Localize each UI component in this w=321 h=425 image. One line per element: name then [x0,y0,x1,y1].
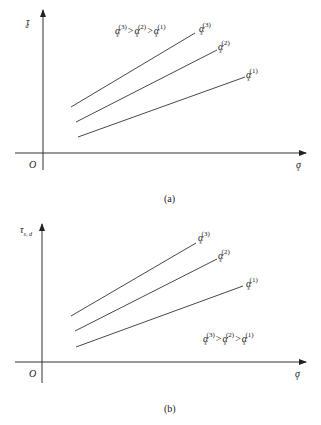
series-label-a-alpha1: αs(1) [246,70,258,80]
inequality-annotation-b: αs(3)>αs(2)>αs(1) [203,334,254,344]
series-label-b-alpha1: αs(1) [246,279,258,289]
line-a-alpha3 [71,33,195,107]
diagram-canvas [0,0,321,425]
line-a-alpha1 [78,77,245,137]
panel-b-axes [15,224,306,383]
series-label-b-alpha2: αs(2) [218,251,230,261]
y-axis-label-a: τd [26,17,29,27]
y-axis-label-b: τs, d [20,225,32,235]
origin-label-b: O [29,369,36,379]
series-label-b-alpha3: αs(3) [198,233,210,243]
caption-a: (a) [164,194,175,204]
inequality-annotation-a: αs(3)>αs(2)>αs(1) [115,26,166,36]
line-b-alpha2 [75,259,217,331]
origin-label-a: O [29,160,36,170]
series-label-a-alpha3: αs(3) [199,24,211,34]
line-a-alpha2 [76,50,217,122]
x-axis-label-b: σs [295,369,298,379]
x-axis-label-a: σs [296,160,299,170]
series-label-a-alpha2: αs(2) [218,42,230,52]
caption-b: (b) [164,404,176,414]
